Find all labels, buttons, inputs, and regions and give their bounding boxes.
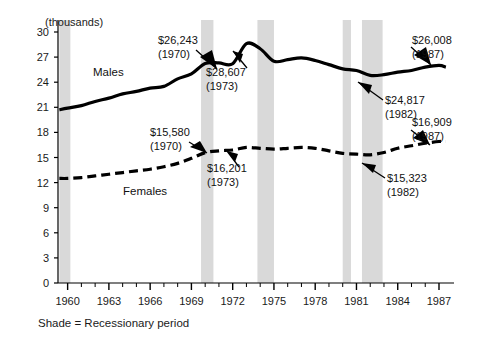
y-tick-label: 6 xyxy=(43,227,49,239)
annotation-males-1973-year: (1973) xyxy=(206,80,238,92)
y-tick-label: 3 xyxy=(43,252,49,264)
y-tick-label: 12 xyxy=(37,177,49,189)
x-tick-label: 1960 xyxy=(55,295,79,307)
annotation-males-1970-year: (1970) xyxy=(158,48,190,60)
x-tick-label: 1981 xyxy=(344,295,368,307)
annotation-females-1973-value: $16,201 xyxy=(207,162,247,174)
annotation-males-1982-value: $24,817 xyxy=(385,94,425,106)
x-tick-label: 1987 xyxy=(427,295,451,307)
x-axis-tick-labels: 1960196319661969197219751978198119841987 xyxy=(55,295,451,307)
y-axis-tick-labels: 036912151821242730 xyxy=(37,26,49,289)
shaded-band-recession-1960 xyxy=(59,20,70,283)
x-tick-label: 1966 xyxy=(138,295,162,307)
y-tick-label: 27 xyxy=(37,51,49,63)
annotation-females-1970-year: (1970) xyxy=(150,140,182,152)
chart-container: 036912151821242730 196019631966196919721… xyxy=(0,0,479,344)
x-tick-label: 1969 xyxy=(179,295,203,307)
shaded-band-recession-1980 xyxy=(343,20,351,283)
line-chart: 036912151821242730 196019631966196919721… xyxy=(0,0,479,344)
y-tick-label: 0 xyxy=(43,277,49,289)
annotation-females-1982-year: (1982) xyxy=(387,186,419,198)
series-label-males: Males xyxy=(93,66,124,78)
annotation-females-1987-year: (1987) xyxy=(412,130,444,142)
x-tick-label: 1975 xyxy=(262,295,286,307)
annotation-males-1987-value: $26,008 xyxy=(412,34,452,46)
annotation-females-1970-value: $15,580 xyxy=(150,126,190,138)
annotation-males-1973-value: $28,607 xyxy=(206,66,246,78)
y-tick-label: 9 xyxy=(43,202,49,214)
leader-females-1973-arrowhead xyxy=(227,151,238,162)
y-tick-label: 15 xyxy=(37,152,49,164)
annotation-females-1982-value: $15,323 xyxy=(387,172,427,184)
annotation-females-1987-value: $16,909 xyxy=(412,116,452,128)
series-label-females: Females xyxy=(123,185,167,197)
x-tick-label: 1972 xyxy=(220,295,244,307)
x-tick-label: 1963 xyxy=(97,295,121,307)
y-tick-label: 18 xyxy=(37,126,49,138)
chart-axes xyxy=(54,20,454,290)
x-tick-label: 1984 xyxy=(385,295,409,307)
shaded-band-recession-1982 xyxy=(362,20,383,283)
annotation-females-1973-year: (1973) xyxy=(207,176,239,188)
recession-shaded-bands xyxy=(59,20,382,283)
y-tick-label: 21 xyxy=(37,101,49,113)
x-tick-label: 1978 xyxy=(303,295,327,307)
annotation-males-1970-value: $26,243 xyxy=(158,34,198,46)
chart-footnote: Shade = Recessionary period xyxy=(38,317,189,329)
y-tick-label: 24 xyxy=(37,76,49,88)
annotation-males-1987-year: (1987) xyxy=(412,48,444,60)
y-axis-unit-label: (thousands) xyxy=(45,16,103,28)
